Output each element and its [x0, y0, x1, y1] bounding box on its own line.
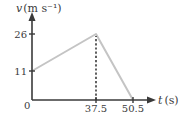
- y-tick-label-0: 11: [14, 66, 27, 77]
- x-axis-arrow-icon: [147, 97, 156, 104]
- series-layer: [32, 34, 133, 100]
- x-tick-label-0: 37.5: [85, 103, 107, 114]
- x-axis-label: t(s): [158, 94, 179, 107]
- origin-label: 0: [24, 100, 30, 111]
- series-line-velocity: [32, 34, 133, 100]
- axes-layer: [29, 12, 157, 104]
- x-axis-variable: t: [158, 94, 163, 107]
- y-axis-unit: (m s⁻¹): [23, 2, 61, 15]
- y-axis-variable: v: [16, 2, 23, 15]
- y-tick-label-1: 26: [14, 29, 27, 40]
- velocity-time-graph: 37.550.51126 0 v(m s⁻¹) t(s): [0, 0, 180, 119]
- y-axis-label: v(m s⁻¹): [16, 2, 62, 15]
- tick-layer: 37.550.51126: [14, 29, 144, 115]
- x-tick-label-1: 50.5: [122, 103, 144, 114]
- x-axis-unit: (s): [164, 94, 178, 107]
